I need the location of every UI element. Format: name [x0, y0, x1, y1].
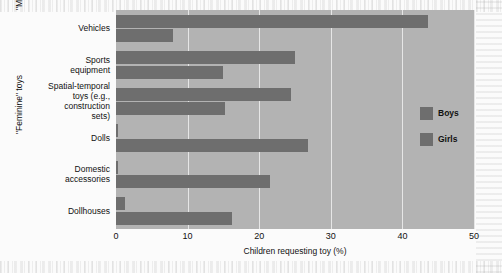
x-tick-label-30: 30	[311, 231, 351, 241]
x-tick-label-50: 50	[454, 231, 494, 241]
category-label-line: sets)	[6, 111, 110, 121]
x-axis-title: Children requesting toy (%)	[116, 246, 474, 256]
gridline-20	[259, 10, 260, 229]
bar-girls-5	[116, 212, 232, 225]
bar-boys-3	[116, 124, 118, 137]
bar-girls-1	[116, 66, 223, 79]
bar-girls-3	[116, 139, 308, 152]
gridline-40	[402, 10, 403, 229]
x-tick-label-20: 20	[239, 231, 279, 241]
bar-boys-2	[116, 88, 291, 101]
bar-boys-4	[116, 161, 118, 174]
category-label-3: Dolls	[6, 133, 110, 143]
legend-swatch-girls	[420, 133, 433, 146]
x-axis-ticks: 01020304050	[116, 231, 474, 245]
category-label-line: construction	[6, 101, 110, 111]
category-label-line: Spatial-temporal	[6, 81, 110, 91]
category-axis-labels: VehiclesSportsequipmentSpatial-temporalt…	[0, 10, 110, 229]
x-tick-label-10: 10	[168, 231, 208, 241]
category-label-line: Domestic	[6, 164, 110, 174]
category-label-line: Sports	[6, 55, 110, 65]
bar-girls-4	[116, 175, 270, 188]
legend-item-boys[interactable]: Boys	[420, 103, 478, 123]
bar-boys-5	[116, 197, 125, 210]
chart-figure: "Masculine" toys "Feminine" toys Vehicle…	[0, 0, 502, 273]
legend-label-girls: Girls	[438, 134, 457, 144]
category-label-line: Vehicles	[6, 23, 110, 33]
x-tick-label-0: 0	[96, 231, 136, 241]
paper-texture-bottom	[0, 261, 502, 273]
category-label-5: Dollhouses	[6, 206, 110, 216]
category-label-0: Vehicles	[6, 23, 110, 33]
category-label-line: equipment	[6, 65, 110, 75]
gridline-10	[188, 10, 189, 229]
legend-label-boys: Boys	[438, 108, 459, 118]
bar-girls-2	[116, 102, 225, 115]
bar-boys-1	[116, 51, 295, 64]
bar-girls-0	[116, 29, 173, 42]
category-label-line: Dolls	[6, 133, 110, 143]
gridline-30	[331, 10, 332, 229]
bar-boys-0	[116, 15, 428, 28]
category-label-1: Sportsequipment	[6, 55, 110, 75]
legend-item-girls[interactable]: Girls	[420, 129, 478, 149]
legend-swatch-boys	[420, 107, 433, 120]
category-label-line: toys (e.g.,	[6, 91, 110, 101]
chart-legend: BoysGirls	[420, 103, 478, 155]
category-label-2: Spatial-temporaltoys (e.g.,constructions…	[6, 81, 110, 121]
x-tick-label-40: 40	[382, 231, 422, 241]
category-label-4: Domesticaccessories	[6, 164, 110, 184]
category-label-line: Dollhouses	[6, 206, 110, 216]
group-label-masculine: "Masculine" toys	[14, 0, 24, 10]
category-label-line: accessories	[6, 174, 110, 184]
